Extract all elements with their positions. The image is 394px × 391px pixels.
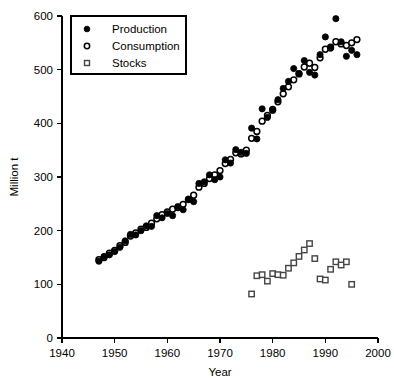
data-point (148, 223, 154, 229)
legend-label: Production (112, 23, 167, 35)
data-point (259, 106, 265, 112)
data-point (291, 65, 297, 71)
series-stocks (249, 241, 354, 297)
data-point (328, 267, 333, 272)
data-point (296, 70, 302, 76)
data-point (307, 241, 312, 246)
data-point (275, 97, 281, 103)
x-tick-label: 1940 (49, 347, 75, 359)
data-point (180, 207, 186, 213)
data-point (296, 254, 301, 259)
data-point (112, 248, 118, 254)
x-tick-label: 1960 (155, 347, 181, 359)
data-point (264, 114, 270, 120)
data-point (191, 199, 197, 205)
data-point (281, 273, 286, 278)
data-point (254, 136, 260, 142)
data-point (265, 278, 270, 283)
legend-marker-icon (84, 43, 89, 48)
data-point (349, 47, 355, 53)
data-point (170, 213, 176, 219)
data-point (286, 266, 291, 271)
data-point (312, 65, 318, 71)
data-point (201, 179, 207, 185)
chart-container: 0100200300400500600194019501960197019801… (0, 0, 394, 391)
y-tick-label: 300 (34, 171, 53, 183)
data-point (227, 160, 233, 166)
x-tick-label: 1970 (207, 347, 233, 359)
data-point (344, 259, 349, 264)
data-point (159, 215, 165, 221)
data-point (96, 258, 102, 264)
data-point (138, 228, 144, 234)
data-point (354, 52, 360, 58)
legend-marker-icon (85, 61, 90, 66)
x-tick-label: 1980 (260, 347, 286, 359)
data-point (249, 125, 255, 131)
data-point (328, 45, 334, 51)
y-tick-label: 100 (34, 278, 53, 290)
data-point (206, 172, 212, 178)
y-tick-label: 500 (34, 64, 53, 76)
legend-label: Consumption (112, 40, 180, 52)
data-point (117, 244, 123, 250)
data-point (349, 282, 354, 287)
data-point (270, 107, 276, 113)
data-point (291, 260, 296, 265)
data-point (285, 78, 291, 84)
data-point (133, 232, 139, 238)
legend-label: Stocks (112, 57, 147, 69)
x-tick-label: 1990 (313, 347, 339, 359)
data-point (322, 34, 328, 40)
data-point (243, 150, 249, 156)
data-point (338, 39, 344, 45)
data-point (191, 192, 197, 198)
y-axis-title: Million t (8, 157, 20, 197)
legend-marker-icon (84, 26, 90, 32)
data-point (312, 256, 317, 261)
data-point (343, 53, 349, 59)
data-point (249, 291, 254, 296)
data-point (217, 174, 223, 180)
data-point (259, 272, 264, 277)
data-point (259, 118, 265, 124)
data-point (312, 72, 318, 78)
chart-legend: ProductionConsumptionStocks (71, 16, 186, 74)
data-point (317, 52, 323, 58)
y-tick-label: 400 (34, 117, 53, 129)
data-point (217, 168, 223, 174)
y-tick-label: 600 (34, 10, 53, 22)
data-point (122, 238, 128, 244)
data-point (323, 277, 328, 282)
y-tick-label: 0 (47, 332, 53, 344)
data-point (333, 16, 339, 22)
x-tick-label: 1950 (102, 347, 128, 359)
x-tick-label: 2000 (365, 347, 391, 359)
data-point (301, 57, 307, 63)
data-point (301, 64, 307, 70)
data-point (354, 37, 360, 43)
scatter-plot: 0100200300400500600194019501960197019801… (0, 0, 394, 391)
y-tick-label: 200 (34, 225, 53, 237)
data-point (302, 247, 307, 252)
data-point (280, 85, 286, 91)
x-axis-title: Year (208, 366, 231, 378)
